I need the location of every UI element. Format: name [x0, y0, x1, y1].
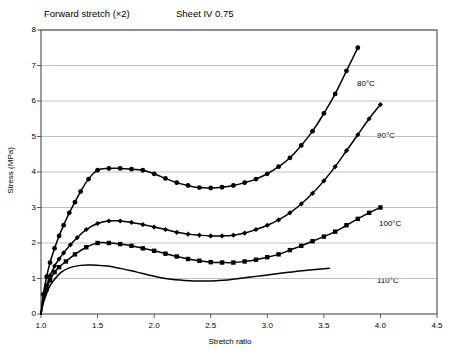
chart-container: Forward stretch (×2) Sheet IV 0.75 Stret… — [0, 0, 460, 357]
axis-ticks — [37, 30, 437, 318]
y-tick-label: 0 — [22, 309, 36, 318]
x-tick-label: 3.0 — [253, 321, 281, 330]
y-tick-label: 7 — [22, 61, 36, 70]
x-tick-label: 1.5 — [84, 321, 112, 330]
x-tick-label: 3.5 — [310, 321, 338, 330]
x-tick-label: 2.0 — [140, 321, 168, 330]
chart-plot — [0, 0, 460, 357]
y-tick-label: 8 — [22, 25, 36, 34]
y-tick-label: 5 — [22, 132, 36, 141]
data-series — [41, 45, 383, 314]
x-tick-label: 4.0 — [366, 321, 394, 330]
x-tick-label: 2.5 — [197, 321, 225, 330]
y-tick-label: 2 — [22, 238, 36, 247]
x-tick-label: 1.0 — [27, 321, 55, 330]
y-tick-label: 3 — [22, 203, 36, 212]
x-tick-label: 4.5 — [423, 321, 451, 330]
grid-lines — [41, 30, 437, 279]
y-tick-label: 6 — [22, 96, 36, 105]
y-tick-label: 4 — [22, 167, 36, 176]
y-tick-label: 1 — [22, 274, 36, 283]
